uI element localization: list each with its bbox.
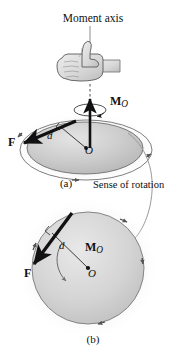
moment-arm-label-a: d [47, 130, 53, 141]
force-vector-label-b: F [24, 267, 31, 279]
moment-symbol-a: M [110, 94, 121, 108]
moment-axis-label: Moment axis [0, 13, 186, 25]
force-vector-label-a: F [8, 136, 15, 148]
moment-vector-label-b: MO [85, 241, 103, 255]
origin-label-a: O [85, 145, 93, 156]
moment-vector-label-a: MO [110, 95, 128, 109]
origin-label-b: O [88, 268, 96, 279]
moment-subscript-a: O [121, 99, 128, 109]
thumbs-up-hand-icon [57, 41, 120, 81]
moment-arm-label-b: d [59, 240, 65, 251]
moment-subscript-b: O [96, 245, 103, 255]
caption-a: (a) [0, 178, 132, 189]
panel-a-group [9, 26, 161, 184]
moment-symbol-b: M [85, 240, 96, 254]
caption-b: (b) [0, 334, 186, 345]
